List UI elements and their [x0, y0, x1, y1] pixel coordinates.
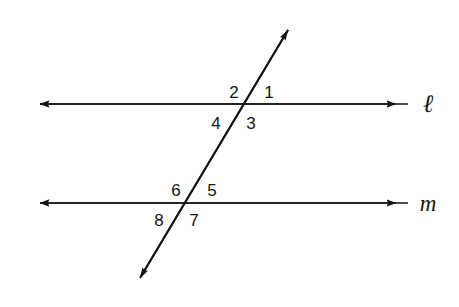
angle-label-3: 3 — [246, 115, 255, 132]
angle-label-5: 5 — [207, 182, 216, 199]
line-label-m: m — [420, 192, 437, 215]
angle-label-8: 8 — [154, 212, 163, 229]
angle-label-1: 1 — [264, 84, 273, 101]
angle-label-7: 7 — [189, 212, 198, 229]
geometry-diagram: 1 2 3 4 5 6 7 8 ℓ m — [0, 0, 459, 307]
angle-label-2: 2 — [229, 84, 238, 101]
angle-label-6: 6 — [171, 182, 180, 199]
line-label-l: ℓ — [423, 91, 433, 116]
transversal-lower-arrow — [140, 30, 288, 278]
angle-label-4: 4 — [211, 115, 220, 132]
diagram-canvas — [0, 0, 459, 307]
